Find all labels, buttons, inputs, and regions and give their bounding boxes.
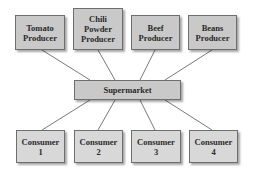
line-chili-supermarket [98,50,115,80]
tomato-producer-label: Tomato Producer [23,23,57,43]
consumer-4-box: Consumer 4 [189,130,238,163]
consumer-4-label: Consumer 4 [195,137,233,157]
supermarket-label: Supermarket [103,85,151,95]
line-supermarket-consumer4 [165,100,212,130]
beans-producer-label: Beans Producer [196,23,230,43]
line-supermarket-consumer2 [98,100,115,130]
tomato-producer-box: Tomato Producer [15,15,65,50]
line-tomato-supermarket [42,50,90,80]
supermarket-box: Supermarket [74,80,181,100]
chili-powder-producer-box: Chili Powder Producer [73,8,123,50]
consumer-3-label: Consumer 3 [137,137,175,157]
chili-powder-producer-label: Chili Powder Producer [81,14,115,44]
line-beef-supermarket [140,50,155,80]
consumer-3-box: Consumer 3 [131,130,181,163]
line-beans-supermarket [165,50,212,80]
consumer-2-label: Consumer 2 [80,137,118,157]
beef-producer-box: Beef Producer [131,15,180,50]
beef-producer-label: Beef Producer [139,23,173,43]
consumer-1-label: Consumer 1 [22,137,60,157]
beans-producer-box: Beans Producer [188,15,237,50]
consumer-1-box: Consumer 1 [16,130,65,163]
consumer-2-box: Consumer 2 [74,130,123,163]
line-supermarket-consumer1 [42,100,90,130]
line-supermarket-consumer3 [140,100,155,130]
